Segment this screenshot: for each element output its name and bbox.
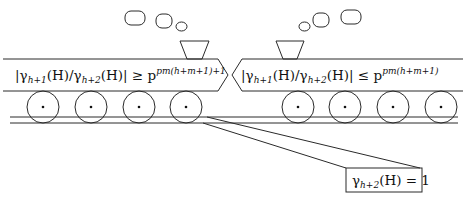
axle-dot xyxy=(440,106,443,109)
right-chimney-icon xyxy=(276,41,304,59)
smoke-puff-icon xyxy=(341,10,361,24)
axle-dot xyxy=(392,106,395,109)
callout-label: γh+2(H) = 1 xyxy=(352,172,430,190)
axle-dot xyxy=(90,106,93,109)
trains-diagram: |γh+1(H)/γh+2(H)| ≥ ppm(h+m+1)+1 |γh+1(H… xyxy=(0,0,465,199)
smoke-puff-icon xyxy=(299,22,310,31)
callout: γh+2(H) = 1 xyxy=(203,117,430,192)
right-train: |γh+1(H)/γh+2(H)| ≤ ppm(h+m+1) xyxy=(232,10,463,123)
smoke-puff-icon xyxy=(125,11,145,25)
callout-pointer-line xyxy=(207,117,420,168)
axle-dot xyxy=(185,106,188,109)
axle-dot xyxy=(138,106,141,109)
left-train: |γh+1(H)/γh+2(H)| ≥ ppm(h+m+1)+1 xyxy=(3,11,228,123)
axle-dot xyxy=(344,106,347,109)
left-chimney-icon xyxy=(180,41,209,59)
smoke-puff-icon xyxy=(176,22,187,31)
right-train-label: |γh+1(H)/γh+2(H)| ≤ ppm(h+m+1) xyxy=(241,66,439,85)
axle-dot xyxy=(297,106,300,109)
smoke-puff-icon xyxy=(156,14,172,28)
rails xyxy=(10,117,458,123)
left-train-label: |γh+1(H)/γh+2(H)| ≥ ppm(h+m+1)+1 xyxy=(15,66,226,85)
left-wheels xyxy=(27,91,202,123)
right-wheels xyxy=(282,91,457,123)
smoke-puff-icon xyxy=(313,13,329,27)
axle-dot xyxy=(42,106,45,109)
left-smoke-puffs xyxy=(125,11,187,31)
right-smoke-puffs xyxy=(299,10,361,31)
